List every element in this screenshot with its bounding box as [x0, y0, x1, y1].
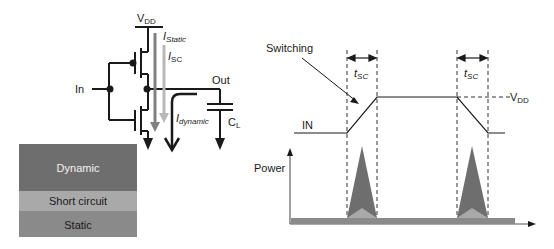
in-wave-label: IN [302, 119, 313, 131]
legend-dynamic-label: Dynamic [57, 162, 100, 174]
i-static-arrow [150, 33, 160, 132]
cl-label: CL [228, 116, 241, 130]
in-label: In [75, 83, 84, 95]
timing-vdd-label: VDD [510, 91, 529, 105]
i-static-label: IStatic [163, 30, 186, 44]
static-power-bar [291, 218, 515, 224]
tsc-arrow-1 [348, 55, 376, 61]
out-label: Out [212, 74, 230, 86]
power-spike-2 [457, 146, 488, 218]
diagram-svg: VDD IStatic ISC In Out Idynamic CL Dynam… [0, 0, 554, 249]
power-spike-1 [347, 146, 377, 218]
tsc-label-2: tSC [464, 67, 478, 81]
legend-short-circuit-label: Short circuit [49, 195, 107, 207]
power-dissipation-diagram: VDD IStatic ISC In Out Idynamic CL Dynam… [0, 0, 554, 249]
power-axis-label: Power [254, 162, 286, 174]
vdd-label: VDD [137, 12, 156, 26]
x-axis-arrow-icon [528, 221, 536, 227]
tsc-label-1: tSC [354, 67, 368, 81]
tsc-arrow-2 [458, 55, 487, 61]
power-legend: Dynamic Short circuit Static [19, 144, 137, 237]
y-axis-arrow-icon [287, 148, 293, 156]
switching-label: Switching [266, 42, 313, 54]
i-dynamic-label: Idynamic [176, 112, 209, 126]
legend-static-label: Static [64, 219, 92, 231]
cap-ground-arrow-icon [215, 138, 225, 150]
in-waveform [294, 97, 505, 133]
i-sc-label: ISC [168, 50, 182, 64]
nmos-ground-arrow-icon [143, 138, 153, 150]
switching-pointer-arrow [302, 58, 359, 104]
